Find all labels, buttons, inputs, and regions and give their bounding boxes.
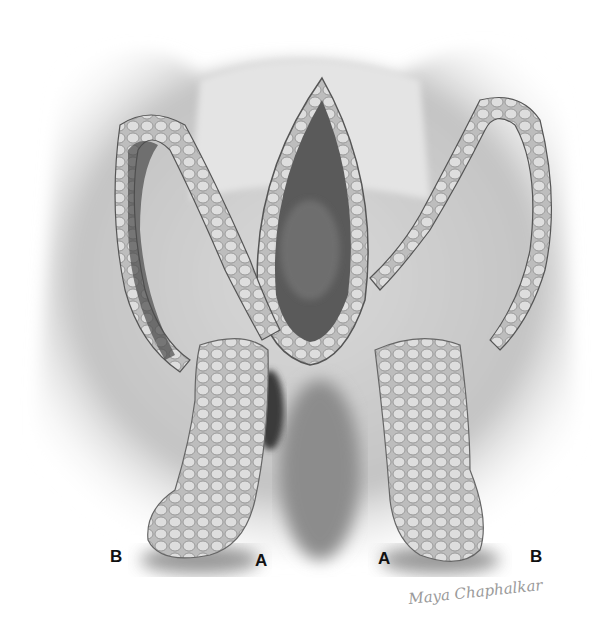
label-right-A: A [378,549,390,569]
label-left-A: A [255,551,267,571]
label-left-B: B [110,547,122,567]
label-right-B: B [530,547,542,567]
surgical-illustration [0,0,604,627]
